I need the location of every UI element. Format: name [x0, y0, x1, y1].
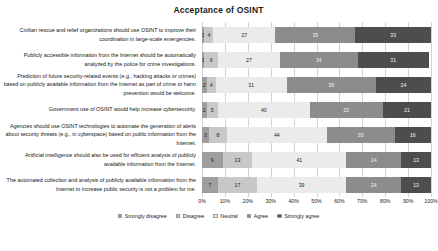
- stacked-bar: 717392413: [202, 177, 431, 193]
- stacked-bar: 14273533: [202, 27, 431, 43]
- x-tick-label: 70%: [357, 198, 367, 204]
- bar-segment: 17: [218, 177, 257, 193]
- x-tick-label: 10%: [220, 198, 230, 204]
- legend-swatch-icon: [213, 214, 218, 219]
- bar-segment: 9: [202, 152, 223, 168]
- x-tick-label: 60%: [334, 198, 344, 204]
- bar-segment: 32: [310, 102, 383, 118]
- legend-label: Strongly agree: [284, 213, 319, 219]
- bar-segment: 41: [252, 152, 346, 168]
- x-tick-label: 80%: [380, 198, 390, 204]
- bar-segment: 44: [227, 127, 327, 143]
- bar-row-label: Prediction of future security-related ev…: [3, 72, 202, 96]
- legend-item[interactable]: Strongly agree: [277, 213, 319, 219]
- bar-segment: 31: [358, 52, 429, 68]
- legend-swatch-icon: [118, 214, 123, 219]
- stacked-bar: 24313924: [202, 77, 431, 93]
- bar-segment: 6: [204, 52, 218, 68]
- legend-item[interactable]: Neutral: [213, 213, 237, 219]
- legend-swatch-icon: [277, 214, 282, 219]
- x-axis-ticks: 0%10%20%30%40%50%60%70%80%90%100%: [202, 197, 431, 210]
- chart-title: Acceptance of OSINT: [0, 5, 437, 15]
- x-tick-label: 20%: [243, 198, 253, 204]
- bar-segment: 3: [202, 127, 209, 143]
- legend-label: Neutral: [220, 213, 237, 219]
- bar-segment: 35: [275, 27, 355, 43]
- bar-segment: 39: [287, 77, 376, 93]
- legend-item[interactable]: Disagree: [176, 213, 205, 219]
- legend-label: Strongly disagree: [125, 213, 167, 219]
- x-axis: 0%10%20%30%40%50%60%70%80%90%100%: [3, 197, 431, 210]
- bar-row-label: The automated collection and analysis of…: [3, 176, 202, 192]
- x-tick-label: 0%: [198, 198, 206, 204]
- stacked-bar: 913412413: [202, 152, 431, 168]
- bar-segment: 16: [395, 127, 431, 143]
- legend-item[interactable]: Strongly disagree: [118, 213, 167, 219]
- legend-swatch-icon: [176, 214, 181, 219]
- bar-segment: 24: [346, 177, 401, 193]
- bar-row-label: Civilian rescue and relief organizations…: [3, 26, 202, 42]
- bar-segment: 21: [383, 102, 431, 118]
- legend-item[interactable]: Agree: [247, 213, 268, 219]
- x-tick-label: 90%: [403, 198, 413, 204]
- bar-segment: 27: [218, 52, 280, 68]
- bar-segment: 4: [204, 27, 213, 43]
- bar-row-label: Government use of OSINT would help incre…: [3, 105, 202, 113]
- bar-segment: 24: [346, 152, 401, 168]
- bar-segment: 27: [213, 27, 275, 43]
- legend-label: Agree: [254, 213, 268, 219]
- x-tick-label: 50%: [311, 198, 321, 204]
- bar-segment: 13: [223, 152, 253, 168]
- x-tick-label: 40%: [288, 198, 298, 204]
- bar-segment: 13: [401, 152, 431, 168]
- bar-segment: 13: [401, 177, 431, 193]
- bar-segment: 30: [327, 127, 395, 143]
- bar-segment: 8: [209, 127, 227, 143]
- bar-segment: 24: [376, 77, 431, 93]
- axis-spacer: [3, 197, 202, 210]
- stacked-bar: 25403221: [202, 102, 431, 118]
- bar-row-label: Agencies should use OSINT technologies t…: [3, 122, 202, 146]
- bar-segment: 7: [202, 177, 218, 193]
- chart-legend: Strongly disagreeDisagreeNeutralAgreeStr…: [0, 213, 437, 219]
- bar-segment: 4: [207, 77, 216, 93]
- x-tick-label: 100%: [424, 198, 437, 204]
- bar-row-label: Publicly accessible information from the…: [3, 51, 202, 67]
- stacked-bar: 16273431: [202, 52, 431, 68]
- gridline: [431, 22, 432, 197]
- stacked-bar: 38443016: [202, 127, 431, 143]
- bar-segment: 40: [218, 102, 310, 118]
- bar-segment: 39: [257, 177, 346, 193]
- bar-row-label: Artificial intelligence should also be u…: [3, 151, 202, 167]
- plot-area: Civilian rescue and relief organizations…: [3, 22, 431, 197]
- bar-segment: 33: [355, 27, 431, 43]
- bar-segment: 34: [280, 52, 358, 68]
- x-tick-label: 30%: [265, 198, 275, 204]
- legend-label: Disagree: [183, 213, 205, 219]
- bar-segment: 5: [207, 102, 218, 118]
- legend-swatch-icon: [247, 214, 252, 219]
- bar-segment: 31: [216, 77, 287, 93]
